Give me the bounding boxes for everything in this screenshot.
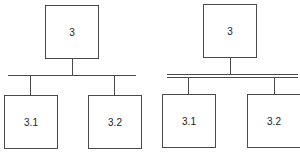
- child-drop-1: [30, 75, 31, 95]
- node-label: 3: [227, 26, 233, 37]
- node-label: 3.2: [108, 117, 122, 128]
- child-drop-2: [114, 75, 115, 95]
- node-label: 3.1: [24, 117, 38, 128]
- root-node: 3: [203, 4, 257, 58]
- child-drop-1: [188, 77, 189, 94]
- node-label: 3.2: [267, 116, 281, 127]
- child-node-1: 3.1: [4, 95, 58, 149]
- child-node-2: 3.2: [88, 95, 142, 149]
- child-node-1: 3.1: [162, 94, 216, 148]
- horizontal-connector: [8, 75, 136, 76]
- node-label: 3.1: [182, 116, 196, 127]
- child-node-2: 3.2: [247, 94, 300, 148]
- root-stem: [72, 59, 73, 76]
- horizontal-connector-top: [167, 74, 298, 75]
- root-stem: [230, 58, 231, 74]
- horizontal-connector-bottom: [167, 77, 298, 78]
- child-drop-2: [274, 77, 275, 94]
- root-node: 3: [45, 5, 99, 59]
- node-label: 3: [69, 27, 75, 38]
